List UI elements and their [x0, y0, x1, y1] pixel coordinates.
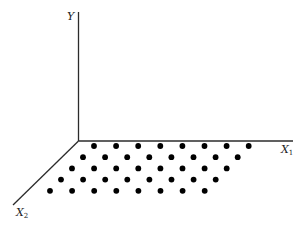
axes — [13, 12, 293, 205]
lattice-point — [224, 143, 230, 149]
lattice-point — [146, 154, 152, 160]
lattice-point — [80, 177, 86, 183]
lattice-point — [113, 143, 119, 149]
lattice-point — [102, 154, 108, 160]
lattice-point — [91, 188, 97, 194]
lattice-point — [58, 177, 64, 183]
lattice-point — [113, 188, 119, 194]
lattice-point — [169, 177, 175, 183]
lattice-point — [91, 143, 97, 149]
lattice-point — [202, 166, 208, 172]
lattice-point — [180, 143, 186, 149]
lattice-point — [47, 188, 53, 194]
lattice-point — [169, 154, 175, 160]
lattice-point — [135, 143, 141, 149]
lattice-point — [69, 166, 75, 172]
lattice-point — [69, 188, 75, 194]
lattice-point — [124, 177, 130, 183]
lattice-point — [135, 166, 141, 172]
lattice-point — [80, 154, 86, 160]
lattice-point — [202, 188, 208, 194]
lattice-point — [180, 166, 186, 172]
lattice-point — [213, 154, 219, 160]
lattice-point — [180, 188, 186, 194]
x2-axis — [13, 141, 79, 205]
lattice-point — [213, 177, 219, 183]
x1-axis-label: X1 — [280, 143, 293, 157]
lattice-point — [157, 143, 163, 149]
lattice-point — [191, 154, 197, 160]
lattice-point — [158, 188, 164, 194]
lattice-point — [147, 177, 153, 183]
y-axis-label: Y — [67, 10, 76, 23]
lattice-point — [124, 154, 130, 160]
lattice-point — [102, 177, 108, 183]
lattice-point — [158, 166, 164, 172]
lattice-point — [202, 143, 208, 149]
lattice-point — [91, 166, 97, 172]
lattice-point — [191, 177, 197, 183]
lattice-diagram: Y X1 X2 — [0, 0, 301, 225]
lattice-point — [113, 166, 119, 172]
lattice-point — [235, 154, 241, 160]
lattice-point — [224, 166, 230, 172]
x2-axis-label: X2 — [15, 206, 28, 220]
lattice-point — [246, 143, 252, 149]
axis-labels: Y X1 X2 — [15, 10, 293, 220]
lattice-points — [47, 143, 252, 194]
lattice-point — [136, 188, 142, 194]
